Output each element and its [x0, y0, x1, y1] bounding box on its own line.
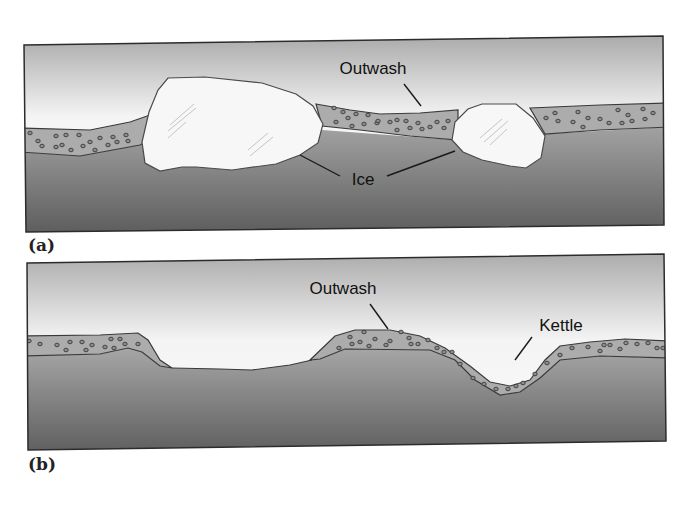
panel-a: Outwash Ice (a) — [20, 34, 670, 255]
panel-label-a: (a) — [28, 235, 55, 255]
panel-label-b: (b) — [28, 454, 56, 474]
panel-b: Outwash Kettle (b) — [20, 250, 670, 474]
callout-ice-a: Ice — [352, 170, 375, 189]
callout-outwash-b: Outwash — [309, 279, 376, 298]
callout-outwash-a: Outwash — [339, 59, 406, 78]
ground-region — [20, 348, 670, 460]
callout-kettle-b: Kettle — [539, 316, 582, 335]
kettle-formation-diagram: Outwash Ice (a) — [0, 0, 692, 506]
